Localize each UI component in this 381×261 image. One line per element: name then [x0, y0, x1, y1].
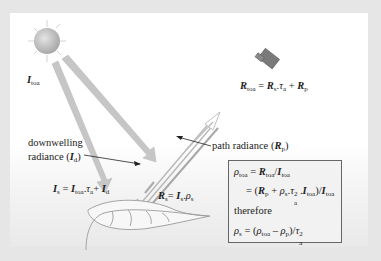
downwelling-pointer-arrow	[84, 155, 141, 166]
path-radiance-label: path radiance (Rp)	[212, 140, 288, 155]
r-s-equation: Rs= Is.ρs	[158, 190, 194, 205]
leaf-icon	[86, 200, 210, 250]
downwelling-radiance-label: downwelling radiance (Id)	[28, 136, 83, 167]
satellite-icon	[255, 46, 280, 69]
i-s-equation: Is = Itoa.τa+ Id	[53, 183, 109, 198]
box-line-1: ρtoa = Rtoa/Itoa	[234, 166, 290, 181]
sun-icon	[28, 20, 66, 62]
box-line-4: ρs = (ρtoa – ρp)/τ2a	[234, 225, 305, 240]
reflectance-equation-box: ρtoa = Rtoa/Itoa = (Rp + ρs.τ2a.Itoa)/It…	[228, 160, 342, 243]
sun-irradiance-label: Itoa	[27, 74, 40, 89]
box-line-3: therefore	[234, 205, 272, 217]
r-toa-equation: Rtoa = Rs.τa + Rp	[240, 80, 308, 95]
box-line-2: = (Rp + ρs.τ2a.Itoa)/Itoa	[246, 185, 334, 200]
